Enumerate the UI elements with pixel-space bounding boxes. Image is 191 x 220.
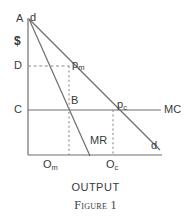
label-oc-base: O — [106, 158, 115, 170]
label-monopoly-price-pm: pm — [72, 59, 84, 70]
figure-caption: Figure 1 — [0, 199, 191, 211]
label-monopoly-output-om: Om — [43, 159, 58, 170]
label-competitive-price-pc: pc — [117, 99, 127, 110]
x-axis-title: OUTPUT — [0, 182, 191, 193]
label-y-axis-dollar: $ — [14, 35, 21, 47]
label-pm-subscript: m — [78, 63, 84, 72]
label-marginal-cost-curve: MC — [164, 104, 181, 115]
label-competitive-output-oc: Oc — [106, 159, 118, 170]
label-om-base: O — [43, 158, 52, 170]
marginal-revenue-curve-line — [29, 19, 90, 156]
label-pc-subscript: c — [123, 103, 127, 112]
figure-container: A d $ D C pm B pc MC MR d Om Oc OUTPUT F… — [0, 0, 191, 220]
label-om-subscript: m — [52, 163, 58, 172]
label-price-d: D — [14, 60, 22, 71]
label-price-c: C — [14, 104, 22, 115]
label-demand-curve-bottom: d — [151, 140, 157, 151]
label-marginal-revenue-curve: MR — [90, 135, 107, 146]
label-oc-subscript: c — [115, 163, 119, 172]
label-point-a: A — [16, 13, 23, 24]
label-point-b: B — [71, 95, 78, 106]
demand-curve-line — [29, 19, 160, 150]
label-demand-curve-top: d — [30, 12, 36, 23]
